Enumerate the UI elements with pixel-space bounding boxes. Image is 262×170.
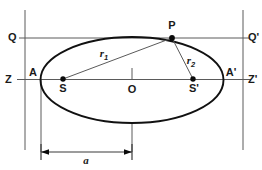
label-S: S <box>59 82 66 94</box>
label-Q: Q <box>8 31 17 43</box>
label-semi-major-axis-a: a <box>83 154 89 166</box>
diagram-canvas: Q Q' Z Z' A A' S S' O P r1 r2 a <box>0 0 262 170</box>
ellipse-diagram-figure: Q Q' Z Z' A A' S S' O P r1 r2 a <box>0 0 262 170</box>
point-dot-S <box>60 76 65 81</box>
dimension-arrow-right-icon <box>124 149 132 155</box>
label-Q-prime: Q' <box>248 31 260 43</box>
point-dot-S-prime <box>190 76 195 81</box>
label-S-prime: S' <box>189 82 199 94</box>
label-Z: Z <box>5 73 12 85</box>
label-O-center: O <box>128 83 137 95</box>
label-P: P <box>168 19 175 31</box>
label-A: A <box>29 66 37 78</box>
label-r1: r1 <box>100 47 108 62</box>
label-A-prime: A' <box>226 66 237 78</box>
label-r1-subscript: 1 <box>104 53 108 62</box>
label-r2-subscript: 2 <box>190 60 196 69</box>
point-dot-P <box>169 35 175 41</box>
dimension-arrow-left-icon <box>41 149 49 155</box>
label-r2: r2 <box>187 54 196 69</box>
label-Z-prime: Z' <box>248 73 258 85</box>
construction-lines <box>17 10 251 152</box>
